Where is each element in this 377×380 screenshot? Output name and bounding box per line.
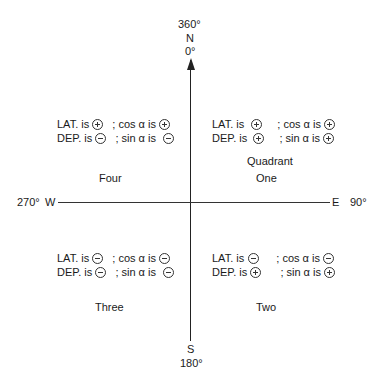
sin-label: ; sin α is — [115, 266, 156, 278]
north-south-axis — [190, 60, 191, 341]
plus-sign-icon — [250, 267, 261, 278]
sin-label: ; sin α is — [115, 132, 156, 144]
plus-sign-icon — [159, 119, 170, 130]
minus-sign-icon — [159, 253, 170, 264]
quadrant-three-lat-row: LAT. is ; cos α is — [57, 252, 170, 265]
west-270-label: 270° — [17, 196, 40, 208]
plus-sign-icon — [92, 119, 103, 130]
minus-sign-icon — [95, 133, 106, 144]
plus-sign-icon — [253, 133, 264, 144]
cos-label: ; cos α is — [112, 252, 156, 264]
minus-sign-icon — [323, 253, 334, 264]
quadrant-one-dep-row: DEP. is ; sin α is — [212, 132, 334, 145]
dep-label: DEP. is — [57, 132, 92, 144]
lat-label: LAT. is — [57, 118, 89, 130]
minus-sign-icon — [163, 133, 174, 144]
lat-label: LAT. is — [212, 118, 244, 130]
quadrant-one-name: One — [256, 172, 277, 184]
plus-sign-icon — [251, 119, 262, 130]
west-letter: W — [45, 196, 55, 208]
north-0-label: 0° — [185, 45, 196, 57]
quadrant-three-name: Three — [95, 301, 124, 313]
north-letter: N — [186, 32, 194, 44]
minus-sign-icon — [248, 253, 259, 264]
quadrant-four-name: Four — [99, 172, 122, 184]
minus-sign-icon — [95, 267, 106, 278]
minus-sign-icon — [163, 267, 174, 278]
cos-label: ; cos α is — [112, 118, 156, 130]
plus-sign-icon — [324, 267, 335, 278]
minus-sign-icon — [92, 253, 103, 264]
north-arrow-icon — [187, 58, 195, 70]
north-360-label: 360° — [178, 18, 201, 30]
east-letter: E — [332, 196, 339, 208]
quadrant-two-name: Two — [256, 301, 276, 313]
south-letter: S — [187, 343, 194, 355]
cos-label: ; cos α is — [276, 252, 320, 264]
dep-label: DEP. is — [57, 266, 92, 278]
quadrant-one-lat-row: LAT. is ; cos α is — [212, 118, 335, 131]
plus-sign-icon — [324, 119, 335, 130]
quadrant-one-label: Quadrant — [247, 155, 293, 167]
dep-label: DEP. is — [212, 266, 247, 278]
quadrant-four-dep-row: DEP. is ; sin α is — [57, 132, 174, 145]
cos-label: ; cos α is — [277, 118, 321, 130]
quadrant-two-lat-row: LAT. is ; cos α is — [212, 252, 334, 265]
sin-label: ; sin α is — [280, 266, 321, 278]
sin-label: ; sin α is — [279, 132, 320, 144]
south-180-label: 180° — [180, 357, 203, 369]
dep-label: DEP. is — [212, 132, 247, 144]
east-west-axis — [58, 202, 330, 203]
plus-sign-icon — [323, 133, 334, 144]
quadrant-three-dep-row: DEP. is ; sin α is — [57, 266, 174, 279]
lat-label: LAT. is — [212, 252, 244, 264]
lat-label: LAT. is — [57, 252, 89, 264]
east-90-label: 90° — [350, 196, 367, 208]
quadrant-four-lat-row: LAT. is ; cos α is — [57, 118, 170, 131]
quadrant-two-dep-row: DEP. is ; sin α is — [212, 266, 335, 279]
